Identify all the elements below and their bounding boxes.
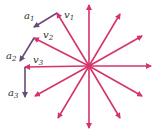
velocity-arrow: [89, 14, 120, 66]
velocity-arrow: [89, 66, 120, 118]
vector-v3: [25, 66, 89, 67]
vector-a1: [34, 13, 57, 27]
label-a2: a2: [6, 50, 17, 63]
vector-diagram: v1 v2 v3 a1 a2 a3: [0, 0, 157, 133]
velocity-arrow: [89, 36, 142, 66]
label-a1: a1: [24, 10, 34, 23]
velocity-arrow: [89, 66, 142, 96]
origin-point: [87, 64, 92, 69]
label-v1: v1: [64, 9, 74, 22]
label-a3: a3: [8, 87, 19, 100]
label-v3: v3: [33, 54, 44, 67]
vector-a2: [20, 38, 34, 61]
label-v2: v2: [43, 29, 54, 42]
